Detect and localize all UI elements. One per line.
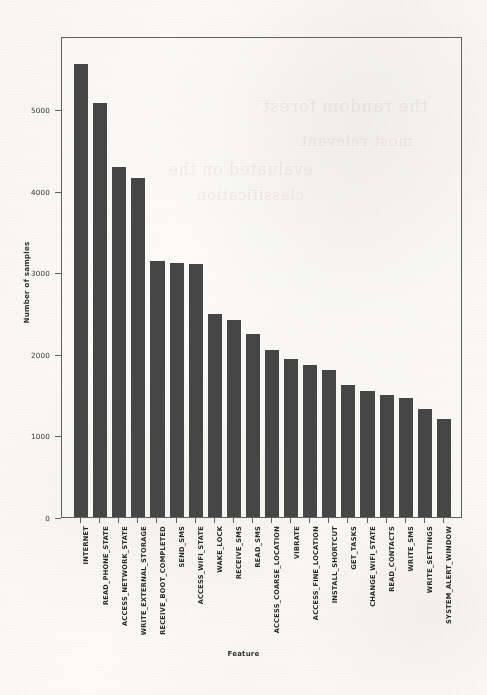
bar bbox=[246, 334, 260, 517]
x-axis-tick bbox=[252, 518, 253, 523]
x-axis-tick bbox=[80, 518, 81, 523]
x-axis-tick bbox=[328, 518, 329, 523]
x-axis-tick bbox=[214, 518, 215, 523]
x-axis-tick-label: READ_PHONE_STATE bbox=[102, 526, 110, 605]
x-axis-tick-label: INTERNET bbox=[82, 526, 90, 565]
y-axis-tick bbox=[55, 273, 61, 274]
y-axis-tick bbox=[55, 518, 61, 519]
y-axis-tick-label: 0 bbox=[45, 514, 50, 523]
bar bbox=[418, 409, 432, 517]
x-axis-tick bbox=[443, 518, 444, 523]
bar bbox=[170, 263, 184, 517]
y-axis-tick bbox=[55, 355, 61, 356]
x-axis-tick bbox=[271, 518, 272, 523]
x-axis-label: Feature bbox=[0, 650, 487, 658]
x-axis-tick-label: READ_CONTACTS bbox=[388, 526, 396, 592]
bar bbox=[322, 370, 336, 517]
x-axis-tick bbox=[309, 518, 310, 523]
bar bbox=[437, 419, 451, 517]
bar bbox=[399, 398, 413, 517]
y-axis-tick-label: 1000 bbox=[31, 432, 50, 441]
bar bbox=[208, 314, 222, 517]
bar bbox=[341, 385, 355, 517]
bar bbox=[131, 178, 145, 517]
x-axis-tick-label: WAKE_LOCK bbox=[216, 526, 224, 573]
x-axis-tick bbox=[118, 518, 119, 523]
x-axis-tick-label: RECEIVE_SMS bbox=[235, 526, 243, 579]
y-axis-tick bbox=[55, 436, 61, 437]
x-axis-tick-label: SEND_SMS bbox=[178, 526, 186, 568]
x-axis-tick-label: ACCESS_FINE_LOCATION bbox=[312, 526, 320, 620]
x-axis-tick-label: WRITE_SMS bbox=[407, 526, 415, 571]
x-axis-tick-label: READ_SMS bbox=[254, 526, 262, 568]
bar bbox=[265, 350, 279, 517]
bar-chart-figure: 010002000300040005000 Number of samples … bbox=[0, 0, 487, 695]
y-axis-tick-label: 4000 bbox=[31, 187, 50, 196]
x-axis-tick-label: ACCESS_NETWORK_STATE bbox=[121, 526, 129, 626]
x-axis-tick-label: CHANGE_WIFI_STATE bbox=[369, 526, 377, 607]
bar bbox=[112, 167, 126, 517]
x-axis-tick-label: VIBRATE bbox=[293, 526, 301, 559]
x-axis-tick bbox=[176, 518, 177, 523]
bar bbox=[227, 320, 241, 517]
x-axis-tick bbox=[99, 518, 100, 523]
x-axis-tick-label: RECEIVE_BOOT_COMPLETED bbox=[159, 526, 167, 635]
x-axis-tick bbox=[290, 518, 291, 523]
y-axis-tick-label: 2000 bbox=[31, 350, 50, 359]
x-axis-tick-label: INSTALL_SHORTCUT bbox=[331, 526, 339, 603]
y-axis-label: Number of samples bbox=[22, 223, 31, 343]
bar bbox=[380, 395, 394, 517]
x-axis-tick bbox=[405, 518, 406, 523]
x-axis-tick-label: WRITE_SETTINGS bbox=[426, 526, 434, 593]
x-axis-tick bbox=[367, 518, 368, 523]
bar bbox=[150, 261, 164, 517]
bar bbox=[284, 359, 298, 517]
bar bbox=[189, 264, 203, 517]
x-axis-tick-label: ACCESS_COARSE_LOCATION bbox=[273, 526, 281, 633]
x-axis-tick-label: WRITE_EXTERNAL_STORAGE bbox=[140, 526, 148, 635]
x-axis-tick bbox=[156, 518, 157, 523]
x-axis-tick bbox=[424, 518, 425, 523]
x-axis-tick bbox=[233, 518, 234, 523]
x-axis-tick-label: GET_TASKS bbox=[350, 526, 358, 570]
bar bbox=[303, 365, 317, 517]
y-axis-tick-label: 5000 bbox=[31, 106, 50, 115]
x-axis-tick-label: ACCESS_WIFI_STATE bbox=[197, 526, 205, 604]
x-axis-tick bbox=[195, 518, 196, 523]
x-axis-tick bbox=[347, 518, 348, 523]
bar-series bbox=[62, 38, 461, 517]
x-axis-tick bbox=[386, 518, 387, 523]
bar bbox=[74, 64, 88, 517]
x-axis-tick bbox=[137, 518, 138, 523]
y-axis-tick-label: 3000 bbox=[31, 269, 50, 278]
y-axis-tick bbox=[55, 110, 61, 111]
x-axis-tick-label: SYSTEM_ALERT_WINDOW bbox=[445, 526, 453, 624]
plot-area-frame bbox=[61, 37, 462, 518]
bar bbox=[93, 103, 107, 517]
y-axis-tick bbox=[55, 192, 61, 193]
bar bbox=[360, 391, 374, 517]
